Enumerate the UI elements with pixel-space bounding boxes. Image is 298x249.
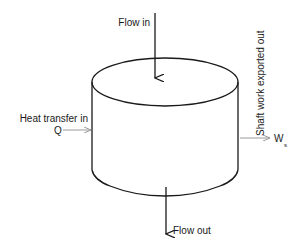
- flow-in-label: Flow in: [118, 17, 150, 28]
- cylinder: [92, 58, 238, 196]
- flow-out-label: Flow out: [173, 225, 211, 236]
- cylinder-bottom: [92, 170, 238, 196]
- heat-transfer-label: Heat transfer in: [20, 113, 88, 124]
- control-volume-diagram: Flow in Flow out Heat transfer in Q Shaf…: [0, 0, 298, 249]
- work-symbol: W: [274, 133, 284, 144]
- shaft-work-label: Shaft work exported out: [255, 30, 266, 136]
- work-subscript: s: [284, 142, 287, 148]
- cylinder-top: [92, 58, 238, 106]
- heat-symbol: Q: [54, 125, 62, 136]
